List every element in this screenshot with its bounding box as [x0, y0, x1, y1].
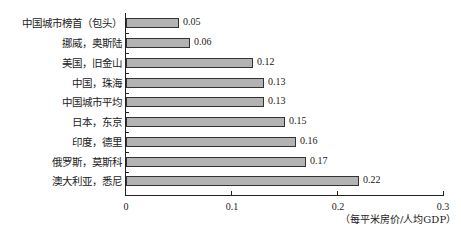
bar [126, 176, 359, 186]
bar [126, 117, 285, 127]
value-label: 0.05 [183, 16, 201, 28]
category-label: 中国，珠海 [72, 77, 122, 89]
x-tick [231, 191, 232, 195]
bar [126, 18, 179, 28]
value-label: 0.13 [268, 76, 286, 88]
category-label: 印度，德里 [72, 136, 122, 148]
value-label: 0.13 [268, 95, 286, 107]
category-label: 美国，旧金山 [62, 57, 122, 69]
y-tick [126, 53, 129, 54]
value-label: 0.17 [310, 155, 328, 167]
value-label: 0.22 [363, 174, 381, 186]
bar [126, 38, 190, 48]
x-axis [125, 195, 444, 196]
category-label: 挪威，奥斯陆 [62, 37, 122, 49]
y-tick [126, 172, 129, 173]
x-tick-label: 0.1 [226, 201, 239, 213]
y-tick [126, 112, 129, 113]
x-tick-label: 0.2 [332, 201, 345, 213]
bar [126, 157, 306, 167]
bar [126, 137, 296, 147]
category-label: 澳大利亚，悉尼 [52, 175, 122, 187]
y-tick [126, 33, 129, 34]
category-label: 中国城市平均 [62, 96, 122, 108]
category-label: 中国城市榜首（包头） [22, 17, 122, 29]
x-tick [337, 191, 338, 195]
y-tick [126, 73, 129, 74]
bar [126, 97, 264, 107]
category-label: 俄罗斯，莫斯科 [52, 156, 122, 168]
value-label: 0.15 [289, 115, 307, 127]
y-tick [126, 152, 129, 153]
y-tick [126, 132, 129, 133]
x-tick [125, 191, 126, 195]
y-tick [126, 93, 129, 94]
value-label: 0.06 [194, 36, 212, 48]
bar-chart: 中国城市榜首（包头）0.05挪威，奥斯陆0.06美国，旧金山0.12中国，珠海0… [0, 0, 461, 233]
bar [126, 78, 264, 88]
x-tick [443, 191, 444, 195]
x-axis-title: （每平米房价/人均GDP） [340, 214, 456, 226]
x-tick-label: 0 [124, 201, 129, 213]
bar [126, 58, 253, 68]
category-label: 日本，东京 [72, 116, 122, 128]
x-tick-label: 0.3 [437, 201, 450, 213]
value-label: 0.12 [257, 56, 275, 68]
value-label: 0.16 [300, 135, 318, 147]
